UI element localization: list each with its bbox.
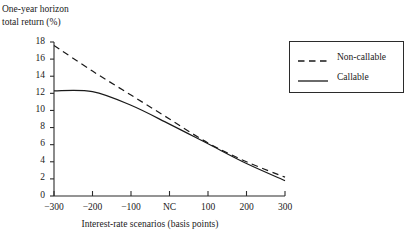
y-tick-label: 2 (23, 172, 45, 182)
x-axis-tick-marks (54, 191, 285, 196)
y-tick-label: 12 (23, 87, 45, 97)
x-tick-label: 300 (263, 202, 307, 212)
x-tick-label: 200 (225, 202, 269, 212)
x-tick-label: −100 (109, 202, 153, 212)
y-tick-label: 6 (23, 138, 45, 148)
y-tick-label: 4 (23, 155, 45, 165)
y-axis-tick-marks (50, 42, 54, 196)
series-line-callable (54, 90, 285, 180)
legend-item-non-callable[interactable]: Non-callable (298, 50, 386, 64)
y-tick-label: 16 (23, 53, 45, 63)
dashed-line-icon (298, 52, 328, 62)
legend-label-callable: Callable (337, 72, 369, 82)
solid-line-icon (298, 72, 328, 82)
x-tick-label: 100 (186, 202, 230, 212)
y-tick-label: 14 (23, 70, 45, 80)
y-tick-label: 0 (23, 190, 45, 200)
x-tick-label: −300 (32, 202, 76, 212)
series-line-non-callable (54, 45, 285, 177)
chart-legend: Non-callable Callable (289, 41, 404, 93)
x-tick-label: −200 (71, 202, 115, 212)
y-tick-label: 18 (23, 36, 45, 46)
legend-item-callable[interactable]: Callable (298, 70, 369, 84)
legend-label-non-callable: Non-callable (337, 52, 386, 62)
x-tick-label: NC (148, 202, 192, 212)
x-axis-title: Interest-rate scenarios (basis points) (0, 219, 300, 229)
chart-figure: One-year horizontotal return (%) 0246810… (0, 0, 409, 240)
y-tick-label: 8 (23, 121, 45, 131)
y-tick-label: 10 (23, 104, 45, 114)
